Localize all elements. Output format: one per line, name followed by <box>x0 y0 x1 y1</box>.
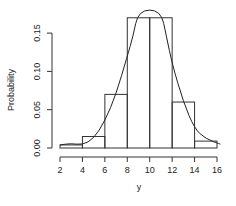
histogram-bar <box>150 18 172 148</box>
histogram-chart: 0.000.050.100.15 246810121416 Probabilit… <box>0 0 236 206</box>
x-tick-label: 16 <box>212 165 222 175</box>
y-tick-label: 0.05 <box>32 101 42 119</box>
histogram-bar <box>82 137 104 148</box>
density-curve <box>60 10 220 145</box>
y-tick-label: 0.10 <box>32 63 42 81</box>
histogram-bar <box>105 94 127 148</box>
histogram-bars <box>60 18 217 148</box>
y-tick-label: 0.00 <box>32 139 42 157</box>
x-tick-label: 14 <box>190 165 200 175</box>
x-tick-label: 4 <box>80 165 85 175</box>
y-tick-label: 0.15 <box>32 24 42 42</box>
histogram-bar <box>172 102 194 148</box>
x-tick-label: 8 <box>125 165 130 175</box>
x-tick-label: 10 <box>145 165 155 175</box>
histogram-bar <box>60 145 82 148</box>
x-tick-label: 12 <box>167 165 177 175</box>
x-tick-label: 6 <box>102 165 107 175</box>
x-axis-label: y <box>137 182 142 192</box>
y-axis: 0.000.050.100.15 <box>32 24 52 156</box>
y-axis-label: Probability <box>6 68 16 111</box>
histogram-bar <box>127 18 149 148</box>
x-tick-label: 2 <box>57 165 62 175</box>
x-axis: 246810121416 <box>57 157 222 175</box>
